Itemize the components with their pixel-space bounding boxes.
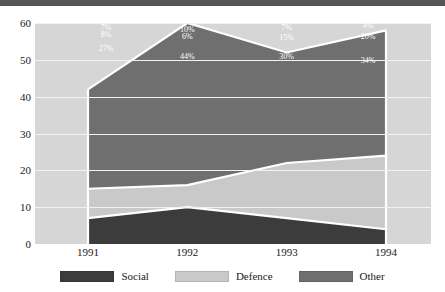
y-tick-label: 30 xyxy=(3,129,31,140)
legend-item-defence[interactable]: Defence xyxy=(175,271,273,282)
gridline xyxy=(35,170,431,171)
legend-label-other: Other xyxy=(360,271,385,282)
legend-label-social: Social xyxy=(121,271,149,282)
legend-label-defence: Defence xyxy=(236,271,273,282)
y-tick-label: 60 xyxy=(3,18,31,29)
gridline xyxy=(35,134,431,135)
x-tick-label-1991: 1991 xyxy=(77,246,99,258)
data-label-defence-1993: 15% xyxy=(279,33,294,42)
x-tick-label-1993: 1993 xyxy=(276,246,298,258)
data-label-other-1992: 44% xyxy=(180,52,195,61)
chart-figure: 0102030405060 7%10%7%4%8%6%15%20%27%44%3… xyxy=(0,6,445,292)
y-tick-label: 0 xyxy=(3,239,31,250)
legend-item-other[interactable]: Other xyxy=(299,271,385,282)
legend-swatch-social xyxy=(60,271,114,282)
data-label-defence-1994: 20% xyxy=(361,32,376,41)
legend-swatch-other xyxy=(299,271,353,282)
x-axis: 1991199219931994 xyxy=(35,246,431,262)
legend-swatch-defence xyxy=(175,271,229,282)
data-label-other-1993: 30% xyxy=(279,52,294,61)
x-tick-label-1992: 1992 xyxy=(176,246,198,258)
x-tick-label-1994: 1994 xyxy=(375,246,397,258)
y-axis: 0102030405060 xyxy=(0,23,31,244)
y-tick-label: 50 xyxy=(3,55,31,66)
gridline xyxy=(35,97,431,98)
legend-item-social[interactable]: Social xyxy=(60,271,149,282)
y-tick-label: 40 xyxy=(3,92,31,103)
y-tick-label: 20 xyxy=(3,165,31,176)
y-tick-label: 10 xyxy=(3,202,31,213)
data-label-other-1991: 27% xyxy=(99,44,114,53)
gridline xyxy=(35,207,431,208)
data-label-other-1994: 34% xyxy=(361,56,376,65)
data-label-defence-1992: 6% xyxy=(182,32,193,41)
data-label-defence-1991: 8% xyxy=(101,30,112,39)
data-label-social-1994: 4% xyxy=(363,23,374,30)
data-label-social-1993: 7% xyxy=(281,23,292,32)
plot-area: 7%10%7%4%8%6%15%20%27%44%30%34% xyxy=(35,23,431,244)
chart-legend: SocialDefenceOther xyxy=(0,266,445,286)
